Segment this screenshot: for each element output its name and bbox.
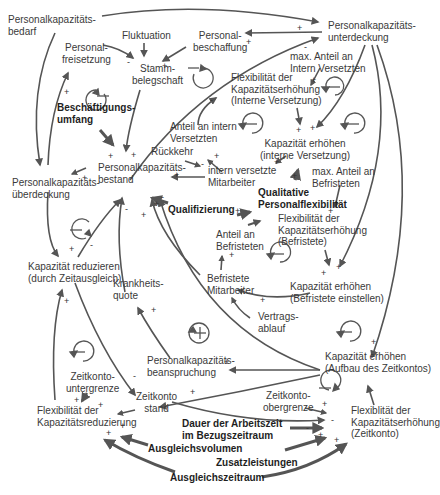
node-max-anteil-befristete: max. Anteil an Befristeten xyxy=(312,166,375,189)
sign-minus: - xyxy=(133,372,136,381)
arrow-vertrag-ma xyxy=(232,298,250,318)
sign-plus: + xyxy=(292,172,297,181)
arrow-ueberdeckung-reduzieren xyxy=(47,192,58,256)
sign-plus: + xyxy=(310,124,315,133)
node-personalbeschaffung: Personal- beschaffung xyxy=(193,30,247,53)
sign-plus: + xyxy=(174,171,179,180)
arrow-flex-kap-befristet xyxy=(325,250,329,265)
sign-plus: + xyxy=(328,207,333,216)
node-personalkapazitaetsbeanspruchung: Personalkapazitäts- beanspruchung xyxy=(147,355,235,378)
sign-minus: - xyxy=(127,58,130,67)
sign-plus: + xyxy=(154,200,159,209)
node-ausgleichszeitraum: Ausgleichszeitraum xyxy=(170,472,264,484)
node-zusatzleistungen: Zusatzleistungen xyxy=(216,457,298,469)
sign-plus: + xyxy=(120,422,125,431)
node-fluktuation: Fluktuation xyxy=(122,30,171,42)
sign-plus: + xyxy=(224,358,229,367)
node-personalkapazitaetsunterdeckung: Personalkapazitäts- unterdeckung xyxy=(328,20,416,43)
node-vertragsablauf: Vertrags- ablauf xyxy=(258,311,299,334)
sign-plus: + xyxy=(297,24,302,33)
sign-plus: + xyxy=(108,152,113,161)
node-max-anteil-intern: max. Anteil an Intern Versetzten xyxy=(290,51,366,74)
node-anteil-befristeten: Anteil an Befristeten xyxy=(216,229,264,252)
node-ausgleichsvolumen: Ausgleichsvolumen xyxy=(148,443,242,455)
node-zeitkontostand: Zeitkonto stand xyxy=(136,391,177,414)
loop-intern-anteil-icon xyxy=(239,113,263,133)
arrow-unterdeckung-beschaffung xyxy=(246,32,322,33)
sign-plus: + xyxy=(321,269,326,278)
loop-reduzierung-icon xyxy=(70,341,94,361)
sign-plus: + xyxy=(229,251,234,260)
sign-plus: + xyxy=(334,436,339,445)
sign-plus: + xyxy=(74,396,79,405)
arrow-beschaeftigung-bestand xyxy=(100,130,113,145)
sign-plus: + xyxy=(64,88,69,97)
arrow-untergrenze-flexred xyxy=(82,393,87,401)
sign-minus: - xyxy=(161,193,164,202)
node-personalkapazitaetsbestand: Personalkapazitäts- bestand xyxy=(98,162,186,185)
arrow-reduzieren-bestand xyxy=(78,200,120,257)
sign-plus: + xyxy=(214,152,219,161)
arrow-bedarf-unterdeckung xyxy=(102,9,318,22)
arrow-bedarf-ueberdeckung xyxy=(36,33,55,165)
sign-plus: + xyxy=(318,431,323,440)
arrow-ma-anteil-befristet xyxy=(221,256,222,270)
arrow-flexred-reduzieren xyxy=(54,290,62,400)
arrow-flexzk-kapzk xyxy=(368,386,374,405)
node-kapazitaet-erhoehen-zeitkonto: Kapazität erhöhen (Aufbau des Zeitkontos… xyxy=(325,351,431,374)
node-zeitkonto-obergrenze: Zeitkonto- obergrenze xyxy=(263,390,314,413)
sign-plus: + xyxy=(162,62,167,71)
node-beschaeftigungsumfang: Beschäftigungs- umfang xyxy=(57,102,135,125)
node-personalfreisetzung: Personal- freisetzung xyxy=(62,42,111,65)
node-kapazitaet-reduzieren: Kapazität reduzieren (durch Zeitausgleic… xyxy=(28,261,121,284)
arrow-volumen-flexred xyxy=(122,437,148,445)
sign-plus: + xyxy=(246,38,251,47)
loop-zeitkonto-erh-icon xyxy=(337,321,361,341)
sign-plus: + xyxy=(260,296,265,305)
sign-plus: + xyxy=(190,388,195,397)
node-qualifizierung: Qualifizierung xyxy=(168,204,235,216)
sign-plus: + xyxy=(274,158,279,167)
node-anteil-intern-versetzten: Anteil an intern Versetzten xyxy=(170,121,237,144)
sign-minus: - xyxy=(304,43,307,52)
node-intern-versetzte-mitarbeiter: intern versetzte Mitarbeiter xyxy=(208,165,276,188)
loop-intern-max-icon xyxy=(322,77,344,95)
sign-minus: - xyxy=(210,96,213,105)
sign-plus: + xyxy=(235,207,240,216)
node-krankheitsquote: Krankheits- quote xyxy=(113,278,164,301)
loop-beanspruchung-icon xyxy=(189,323,209,343)
sign-plus: + xyxy=(131,151,136,160)
sign-plus: + xyxy=(336,263,341,272)
sign-plus: + xyxy=(106,429,111,438)
loop-ueberdeckung-icon xyxy=(70,219,91,239)
node-flexibilitaet-befristete: Flexibilität der Kapazitätserhöhung (Bef… xyxy=(278,213,367,248)
node-zeitkonto-untergrenze: Zeitkonto- untergrenze xyxy=(66,371,119,394)
arrow-flex-kap-intern xyxy=(297,108,300,124)
node-kapazitaet-erhoehen-befristete: Kapazität erhöhen (Befristete einstellen… xyxy=(290,281,384,304)
sign-plus: + xyxy=(371,338,376,347)
node-dauer-arbeitszeit: Dauer der Arbeitszeit im Bezugszeitraum xyxy=(182,418,282,441)
arrow-rueckkehr-mitarbeiter xyxy=(185,161,200,166)
sign-minus: - xyxy=(125,205,128,214)
sign-plus: + xyxy=(151,306,156,315)
sign-plus: + xyxy=(296,126,301,135)
arrow-beanspruchung-krankheit xyxy=(138,308,170,358)
sign-minus: - xyxy=(331,416,334,425)
node-flexibilitaet-interne-versetzung: Flexibilität der Kapazitätserhöhung (Int… xyxy=(231,72,322,107)
node-stammbelegschaft: Stamm- belegschaft xyxy=(132,63,183,86)
sign-plus: + xyxy=(82,174,87,183)
sign-plus: + xyxy=(69,245,74,254)
sign-minus: - xyxy=(201,160,204,169)
node-flexibilitaet-zeitkonto: Flexiblität der Kapazitätserhöhung (Zeit… xyxy=(351,405,440,440)
arrow-unterdeckung-kap-zeitkonto xyxy=(372,45,402,357)
sign-plus: + xyxy=(141,211,146,220)
sign-plus: + xyxy=(322,400,327,409)
arrow-beschaffung-stamm xyxy=(163,47,186,61)
sign-plus: + xyxy=(311,76,316,85)
loop-beschaffung-icon xyxy=(188,65,213,88)
node-rueckkehr: Rückkehr xyxy=(151,146,193,158)
sign-minus: - xyxy=(306,424,309,433)
node-befristete-mitarbeiter: Befristete Mitarbeiter xyxy=(207,273,254,296)
arrow-anteil-flex-befristet xyxy=(248,221,260,225)
node-qualitative-personalflexibilitaet: Qualitative Personalflexibilität xyxy=(258,187,347,210)
